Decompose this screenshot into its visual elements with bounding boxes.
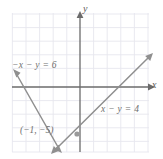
intersection-point-label: (−1, −5) <box>20 126 53 136</box>
intersection-point-marker <box>74 131 79 136</box>
equation-label-line2: x − y = 4 <box>101 105 139 115</box>
x-axis-label: x <box>152 80 156 90</box>
line-neg-x-minus-y-equals-6 <box>13 69 62 153</box>
equation-label-line1: −x − y = 6 <box>12 61 57 71</box>
coordinate-graph-figure: −x − y = 6 x − y = 4 (−1, −5) y x <box>0 0 163 159</box>
y-axis-label: y <box>83 4 87 14</box>
